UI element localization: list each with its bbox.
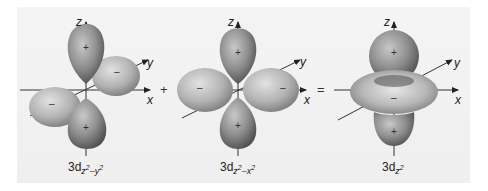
sign-plus: + bbox=[391, 126, 397, 137]
negative-lobe bbox=[243, 68, 299, 112]
x-axis-label: x bbox=[147, 93, 153, 107]
z-axis-label: z bbox=[76, 15, 82, 29]
sign-plus: + bbox=[83, 122, 89, 133]
y-axis-label: y bbox=[300, 55, 306, 69]
sign-minus: – bbox=[391, 92, 397, 103]
sign-plus: + bbox=[83, 42, 89, 53]
negative-lobe bbox=[177, 68, 233, 112]
equals-operator: = bbox=[317, 82, 325, 97]
caption-dz2: 3dz2 bbox=[382, 160, 404, 176]
sign-plus: + bbox=[235, 120, 241, 131]
sign-minus: – bbox=[114, 66, 120, 77]
sign-plus: + bbox=[391, 47, 397, 58]
y-axis-label: y bbox=[454, 56, 460, 70]
x-axis-label: x bbox=[304, 93, 310, 107]
torus-hole bbox=[374, 75, 414, 87]
sign-minus: – bbox=[49, 98, 55, 109]
plus-operator: + bbox=[160, 82, 168, 97]
sign-plus: + bbox=[235, 47, 241, 58]
y-axis-label: y bbox=[147, 56, 153, 70]
sign-minus: – bbox=[280, 82, 286, 93]
caption-dz2-x2: 3dz2–x2 bbox=[220, 160, 255, 176]
z-axis-label: z bbox=[228, 15, 234, 29]
z-axis-label: z bbox=[384, 15, 390, 29]
caption-dz2-y2: 3dz2–y2 bbox=[68, 160, 103, 176]
x-axis-label: x bbox=[455, 93, 461, 107]
sign-minus: – bbox=[197, 82, 203, 93]
